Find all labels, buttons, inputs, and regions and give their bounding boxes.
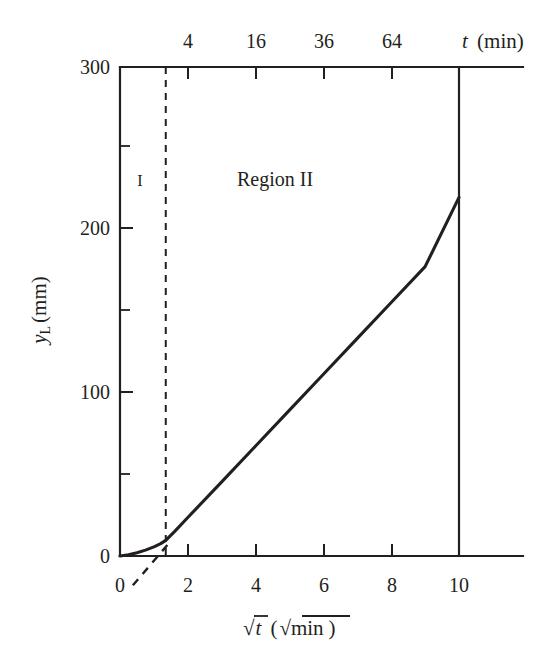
- y-axis-ticklabels: 300 200 100 0: [80, 56, 110, 567]
- svg-text:t (min): t (min): [462, 29, 524, 53]
- top-ticklabel-1: 16: [246, 30, 266, 52]
- top-axis-title: t (min): [462, 29, 524, 53]
- x-axis-radical: √: [243, 616, 255, 640]
- top-axis-variable: t: [462, 29, 469, 53]
- x-axis-unit: min: [291, 616, 324, 640]
- y-ticklabel-200: 200: [80, 217, 110, 239]
- y-axis-ticks: [120, 146, 133, 474]
- x-ticklabel-0: 0: [115, 574, 125, 596]
- x-ticklabel-10: 10: [449, 574, 469, 596]
- top-ticklabel-0: 4: [183, 30, 193, 52]
- top-axis-ticks: [188, 67, 392, 79]
- bottom-axis-ticks: [188, 544, 392, 556]
- y-axis-title: yL(mm): [27, 276, 53, 346]
- figure-container: 4 16 36 64 t (min): [0, 0, 547, 662]
- x-axis-title: √t(√min): [243, 616, 350, 640]
- x-axis-unit-radical: √: [279, 616, 291, 640]
- svg-text:yL(mm): yL(mm): [27, 276, 53, 346]
- y-axis-subscript: L: [38, 326, 53, 335]
- x-ticklabel-4: 4: [251, 574, 261, 596]
- top-axis-ticklabels: 4 16 36 64: [183, 30, 402, 52]
- top-ticklabel-2: 36: [314, 30, 334, 52]
- y-axis-unit: (mm): [27, 276, 51, 323]
- svg-text:√t(√min): √t(√min): [243, 616, 336, 640]
- region-one-label: I: [137, 172, 142, 189]
- x-ticklabel-2: 2: [183, 574, 193, 596]
- liquid-penetration-curve: [120, 197, 459, 556]
- x-ticklabel-8: 8: [387, 574, 397, 596]
- x-axis-open-paren: (: [270, 616, 277, 640]
- y-ticklabel-300: 300: [80, 56, 110, 78]
- top-axis-unit: (min): [477, 29, 524, 53]
- x-axis-close-paren: ): [329, 616, 336, 640]
- top-ticklabel-3: 64: [382, 30, 402, 52]
- x-ticklabel-6: 6: [319, 574, 329, 596]
- y-axis-variable: y: [27, 334, 51, 346]
- liquid-penetration-chart: 4 16 36 64 t (min): [0, 0, 547, 662]
- x-axis-variable: t: [256, 616, 263, 640]
- y-ticklabel-100: 100: [80, 381, 110, 403]
- bottom-axis-ticklabels: 0 2 4 6 8 10: [115, 574, 469, 596]
- region-two-label: Region II: [237, 168, 313, 191]
- y-ticklabel-0: 0: [100, 545, 110, 567]
